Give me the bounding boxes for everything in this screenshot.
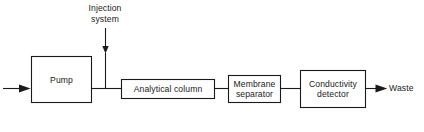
node-analytical-column-box xyxy=(122,80,215,99)
node-membrane-separator-box xyxy=(229,76,281,103)
connector-eluent-inlet xyxy=(3,85,31,93)
diagram-canvas xyxy=(0,0,424,132)
node-conductivity-detector-box xyxy=(301,71,366,108)
connector-detector-to-waste xyxy=(366,85,388,93)
flow-diagram: Pump Analytical column Membrane separato… xyxy=(0,0,424,132)
waste-label: Waste xyxy=(389,83,422,94)
node-pump-box xyxy=(32,57,92,103)
connector-injection-inlet xyxy=(102,28,108,89)
injection-system-label: Injection system xyxy=(82,3,128,24)
